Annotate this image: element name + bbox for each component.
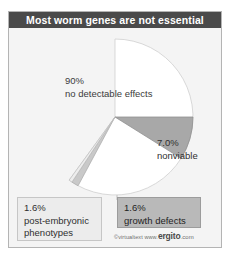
page-title: Most worm genes are not essential — [9, 12, 221, 28]
callout-post-embryonic-pct: 1.6% — [24, 202, 101, 215]
pie-label-no-detectable-effects-text: no detectable effects — [65, 88, 153, 101]
callout-growth-defects-pct: 1.6% — [124, 202, 200, 215]
callout-post-embryonic-phenotypes: 1.6% post-embryonic phenotypes — [17, 197, 102, 241]
credit-brand: ergito — [158, 231, 180, 241]
callout-growth-defects: 1.6% growth defects — [117, 197, 201, 228]
callout-post-embryonic-text-line2: phenotypes — [24, 227, 101, 240]
pie-label-nonviable-pct: 7.0% — [157, 137, 198, 150]
pie-label-no-detectable-effects-pct: 90% — [65, 75, 153, 88]
callout-post-embryonic-text-line1: post-embryonic — [24, 215, 101, 228]
credit-tld: .com — [180, 234, 193, 240]
figure-title-bar: Most worm genes are not essential — [9, 12, 221, 28]
credit-prefix: ©virtualtext www. — [114, 234, 158, 240]
pie-label-nonviable-text: nonviable — [157, 150, 198, 163]
pie-label-nonviable: 7.0% nonviable — [157, 137, 198, 162]
callout-growth-defects-text: growth defects — [124, 215, 200, 228]
copyright-credit: ©virtualtext www.ergito.com — [114, 231, 194, 241]
pie-label-no-detectable-effects: 90% no detectable effects — [65, 75, 153, 100]
figure-root: Most worm genes are not essential 90% no… — [0, 0, 231, 259]
